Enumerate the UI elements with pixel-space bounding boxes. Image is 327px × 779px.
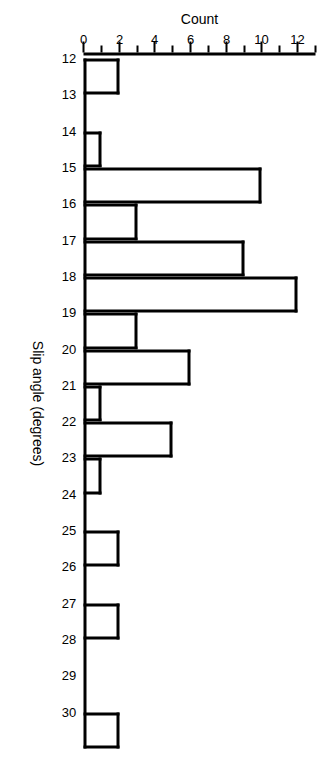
bar-slot [83,566,315,602]
count-axis-tick-label: 2 [111,32,118,47]
slip-angle-tick-label: 26 [61,559,75,574]
count-axis-tick [243,45,245,52]
histogram-bar [83,58,119,94]
plot-area [83,58,315,748]
slip-angle-tick-label: 22 [61,414,75,429]
bar-slot [83,312,315,348]
slip-angle-tick-label: 28 [61,632,75,647]
histogram-bar [83,712,119,748]
bar-slot [83,530,315,566]
bar-slot [83,639,315,675]
slip-angle-axis-title: Slip angle (degrees) [29,58,45,748]
count-axis-tick [314,45,316,52]
bar-slot [83,603,315,639]
bar-slot [83,131,315,167]
slip-angle-tick-label: 14 [61,123,75,138]
slip-angle-tick-label: 20 [61,341,75,356]
bar-slot [83,712,315,748]
count-axis-tick [278,45,280,52]
bar-slot [83,421,315,457]
histogram-bar [83,203,137,239]
count-axis-tick [207,45,209,52]
histogram-bar [83,603,119,639]
bar-slot [83,58,315,94]
bar-slot [83,240,315,276]
histogram-bar [83,167,261,203]
histogram-figure: 024681012 Count 121314151617181920212223… [0,0,327,779]
slip-angle-tick-label: 27 [61,595,75,610]
slip-angle-tick-label: 12 [61,51,75,66]
count-axis-tick-label: 0 [76,32,83,47]
bar-slot [83,203,315,239]
slip-angle-tick-label: 21 [61,377,75,392]
bar-slot [83,457,315,493]
histogram-bar [83,349,190,385]
histogram-bar [83,530,119,566]
baseline-axis [83,58,86,748]
slip-angle-tick-label: 16 [61,196,75,211]
slip-angle-tick-label: 29 [61,668,75,683]
count-axis-tick-label: 12 [283,32,297,47]
slip-angle-tick-label: 19 [61,305,75,320]
bar-slot [83,349,315,385]
count-axis-tick-label: 4 [147,32,154,47]
histogram-bar [83,421,172,457]
count-axis-tick [136,45,138,52]
count-axis-tick-label: 8 [219,32,226,47]
count-axis-title-text: Count [180,11,217,27]
histogram-bar [83,312,137,348]
slip-angle-tick-group: 30 [55,712,77,748]
slip-angle-tick-label: 15 [61,159,75,174]
bar-series [83,58,315,748]
histogram-bar [83,240,244,276]
count-axis-tick-label: 10 [247,32,261,47]
slip-angle-tick-label: 30 [61,704,75,719]
histogram-bar [83,276,297,312]
chart-page: 024681012 Count 121314151617181920212223… [0,0,327,779]
slip-angle-tick-label: 17 [61,232,75,247]
bar-slot [83,494,315,530]
slip-angle-tick-label: 24 [61,486,75,501]
count-axis-tick [100,45,102,52]
bar-slot [83,167,315,203]
count-axis-title: Count [83,10,315,28]
count-axis-tick [171,45,173,52]
bar-slot [83,276,315,312]
bar-slot [83,94,315,130]
slip-angle-tick-label: 13 [61,87,75,102]
bar-slot [83,385,315,421]
slip-angle-tick-label: 18 [61,268,75,283]
bar-slot [83,675,315,711]
slip-angle-tick-label: 25 [61,523,75,538]
slip-angle-tick-label: 23 [61,450,75,465]
count-axis-tick-label: 6 [183,32,190,47]
slip-angle-axis-labels: 12131415161718192021222324252627282930 [55,58,77,748]
